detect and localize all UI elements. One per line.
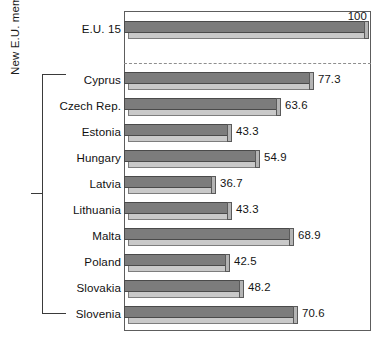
bar-value-label: 54.9 [264, 151, 287, 163]
bar-top-face [124, 21, 365, 33]
bar-front-face [128, 162, 260, 168]
bar-value-label: 42.5 [234, 255, 257, 267]
bar-row: Malta68.9 [0, 227, 387, 249]
bar-top-face [124, 124, 228, 136]
bar-end-cap [289, 228, 294, 246]
reference-divider [124, 63, 371, 64]
bar-row-label: Malta [0, 229, 121, 242]
bar-value-label: 70.6 [302, 307, 325, 319]
bar-row-label: Poland [0, 255, 121, 268]
bar [124, 150, 261, 170]
bar-top-face [124, 150, 256, 162]
bar-end-cap [293, 306, 298, 324]
bar-value-label: 36.7 [220, 177, 243, 189]
bar-value-label: 100 [348, 10, 367, 22]
bar-end-cap [227, 124, 232, 142]
bar-row-label: E.U. 15 [0, 22, 121, 35]
bar-chart: New E.U. members, 2004 E.U. 15100Cyprus7… [0, 0, 387, 345]
bar-front-face [128, 214, 232, 220]
bar-top-face [124, 72, 310, 84]
bar-value-label: 43.3 [236, 125, 259, 137]
bar-end-cap [255, 150, 260, 168]
bar-front-face [128, 292, 244, 298]
bar-front-face [128, 318, 298, 324]
bar-end-cap [309, 72, 314, 90]
bar-value-label: 68.9 [298, 229, 321, 241]
bar-value-label: 43.3 [236, 203, 259, 215]
bar-front-face [128, 266, 230, 272]
bar [124, 21, 370, 41]
bar-front-face [128, 240, 294, 246]
bar-row: Estonia43.3 [0, 123, 387, 145]
bar [124, 228, 295, 248]
bar-row: Cyprus77.3 [0, 71, 387, 93]
bar [124, 72, 315, 92]
bar-row: Lithuania43.3 [0, 201, 387, 223]
bar [124, 306, 299, 326]
bar-top-face [124, 254, 226, 266]
bar [124, 202, 233, 222]
bar-row-label: Czech Rep. [0, 99, 121, 112]
bar-row: Slovakia48.2 [0, 279, 387, 301]
bar-row-label: Slovenia [0, 307, 121, 320]
bar-end-cap [211, 176, 216, 194]
bar [124, 176, 217, 196]
bar-value-label: 48.2 [248, 281, 271, 293]
bar-top-face [124, 280, 240, 292]
bar-row-label: Estonia [0, 125, 121, 138]
bar-front-face [128, 136, 232, 142]
bar-top-face [124, 202, 228, 214]
bar-row: Poland42.5 [0, 253, 387, 275]
bar-row-label: Cyprus [0, 73, 121, 86]
bar [124, 280, 245, 300]
bar [124, 124, 233, 144]
bar-row-label: Hungary [0, 151, 121, 164]
bar-end-cap [227, 202, 232, 220]
bar-value-label: 77.3 [318, 73, 341, 85]
bar-top-face [124, 228, 290, 240]
bar-top-face [124, 306, 294, 318]
bar-front-face [128, 84, 314, 90]
bar-front-face [128, 33, 369, 39]
bar-row-label: Slovakia [0, 281, 121, 294]
bar-row-label: Latvia [0, 177, 121, 190]
bar-row-label: Lithuania [0, 203, 121, 216]
bar-row: Slovenia70.6 [0, 305, 387, 327]
bar-row: Latvia36.7 [0, 175, 387, 197]
bar-value-label: 63.6 [285, 99, 308, 111]
bar-top-face [124, 176, 212, 188]
bar-end-cap [239, 280, 244, 298]
bar-front-face [128, 110, 281, 116]
bar-end-cap [276, 98, 281, 116]
bar-end-cap [225, 254, 230, 272]
bar-row: Hungary54.9 [0, 149, 387, 171]
bar-row: Czech Rep.63.6 [0, 97, 387, 119]
bar-end-cap [364, 21, 369, 39]
bar-front-face [128, 188, 216, 194]
bar-top-face [124, 98, 277, 110]
bar [124, 98, 282, 118]
bar-row: E.U. 15100 [0, 20, 387, 42]
bar [124, 254, 231, 274]
